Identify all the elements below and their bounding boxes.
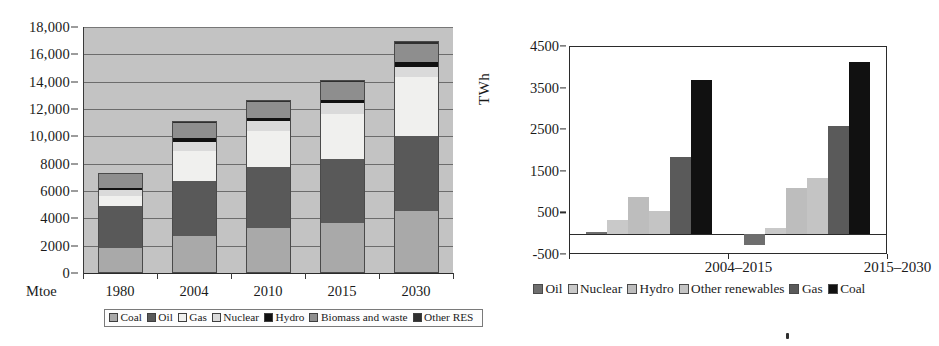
right-chart-legend-item: Coal (828, 282, 866, 295)
left-chart-x-tick-mark (231, 273, 232, 279)
left-chart-plot-area (83, 27, 453, 273)
right-chart-legend-item: Hydro (627, 282, 673, 295)
left-chart-y-tick-mark (71, 109, 78, 110)
left-chart-bar-segment (321, 114, 364, 158)
left-chart-bar-slot (232, 27, 306, 273)
legend-swatch-icon (109, 313, 118, 322)
right-chart-y-tick-mark (560, 253, 566, 254)
left-chart-y-tick-label: 2000 (40, 238, 70, 253)
left-chart-bar-segment (99, 206, 142, 248)
left-chart-x-axis-line (83, 273, 453, 275)
right-chart-legend-label: Other renewables (691, 282, 784, 295)
left-chart-figure: 0200040006000800010,00012,00014,00016,00… (0, 0, 470, 346)
left-chart-x-tick-mark (453, 273, 454, 279)
left-chart-y-tick-label: 10,000 (29, 129, 70, 144)
right-chart-x-tick-label: 2015–2030 (808, 260, 939, 275)
right-chart-bar (691, 80, 712, 234)
left-chart-legend-label: Other RES (424, 312, 473, 323)
page-artifact-mark (786, 333, 789, 339)
left-chart-bar-slot (379, 27, 453, 273)
left-chart-bar-segment (247, 121, 290, 131)
legend-swatch-icon (533, 284, 543, 294)
left-chart-y-tick-label: 8000 (40, 156, 70, 171)
left-chart-y-tick-label: 6000 (40, 184, 70, 199)
right-chart-legend: OilNuclearHydroOther renewablesGasCoal (533, 282, 870, 295)
right-chart-bar (607, 220, 628, 235)
left-chart-legend-label: Biomass and waste (321, 312, 408, 323)
left-chart-legend-label: Oil (158, 312, 172, 323)
right-chart-legend-item: Other renewables (679, 282, 785, 295)
left-chart-bar-segment (321, 159, 364, 223)
left-chart-y-tick-mark (71, 27, 78, 28)
left-chart-y-tick-mark (71, 54, 78, 55)
left-chart-legend-item: Hydro (264, 312, 304, 323)
right-chart-bar (786, 188, 807, 234)
left-chart-bar-segment (173, 142, 216, 152)
right-chart-y-axis: -5005001500250035004500 (500, 0, 566, 270)
left-chart-legend-item: Coal (109, 312, 142, 323)
left-chart-y-tick-label: 12,000 (29, 102, 70, 117)
left-chart-bar-segment (395, 44, 438, 62)
left-chart-bars (84, 27, 453, 273)
left-chart-bar-segment (247, 131, 290, 167)
right-chart-y-tick-label: 500 (537, 205, 559, 220)
right-chart-y-axis-title: TWh (476, 73, 493, 105)
right-chart-legend-label: Nuclear (580, 282, 622, 295)
legend-swatch-icon (309, 313, 318, 322)
right-chart-x-axis-labels: 2004–20152015–2030 (560, 260, 900, 280)
right-chart-legend-item: Oil (533, 282, 563, 295)
left-chart-y-tick-mark (71, 191, 78, 192)
left-chart-bar-segment (99, 174, 142, 188)
right-chart-y-tick-mark (560, 45, 566, 46)
left-chart-legend-item: Biomass and waste (309, 312, 407, 323)
legend-swatch-icon (178, 313, 187, 322)
left-chart-y-tick-label: 0 (63, 266, 70, 281)
left-chart-bar-segment (173, 151, 216, 181)
legend-swatch-icon (568, 284, 578, 294)
left-chart-y-tick-mark (71, 218, 78, 219)
left-chart-x-tick-mark (83, 273, 84, 279)
left-chart-legend-item: Oil (147, 312, 173, 323)
left-chart-x-tick-label: 1980 (100, 284, 140, 299)
right-chart-legend-label: Oil (546, 282, 563, 295)
legend-swatch-icon (828, 284, 838, 294)
left-chart-x-tick-mark (157, 273, 158, 279)
left-chart-y-tick-mark (71, 163, 78, 164)
left-chart-bar-slot (158, 27, 232, 273)
legend-swatch-icon (264, 313, 273, 322)
right-chart-x-tick-mark (569, 254, 570, 259)
right-chart-bar (744, 234, 765, 244)
left-chart-bar-segment (395, 67, 438, 77)
right-chart-legend-label: Hydro (640, 282, 674, 295)
left-chart-stacked-bar (320, 80, 365, 273)
left-chart-stacked-bar (172, 121, 217, 273)
left-chart-bar-segment (395, 211, 438, 272)
right-chart-legend-item: Gas (789, 282, 822, 295)
left-chart-x-tick-label: 2004 (174, 284, 214, 299)
left-chart-bar-segment (321, 82, 364, 100)
left-chart-bar-segment (99, 196, 142, 206)
left-chart-x-tick-label: 2010 (248, 284, 288, 299)
right-chart-plot-area (569, 46, 887, 254)
right-chart-legend-label: Coal (840, 282, 865, 295)
right-chart-y-tick-label: 3500 (530, 80, 559, 95)
left-chart-x-tick-mark (379, 273, 380, 279)
left-chart-bar-segment (395, 136, 438, 211)
left-chart-legend-item: Nuclear (212, 312, 259, 323)
left-chart-bar-segment (247, 102, 290, 118)
left-chart-x-tick-label: 2015 (322, 284, 362, 299)
right-chart-y-tick-label: 4500 (530, 39, 559, 54)
left-chart-bar-segment (173, 181, 216, 236)
left-chart-y-tick-label: 4000 (40, 211, 70, 226)
left-chart-x-axis-labels: 19802004201020152030Mtoe (0, 284, 468, 304)
left-chart-bar-segment (247, 167, 290, 228)
left-chart-x-tick-mark (305, 273, 306, 279)
right-chart-bar (849, 62, 870, 235)
left-chart-y-tick-mark (71, 136, 78, 137)
right-chart-x-tick-label: 2004–2015 (649, 260, 829, 275)
legend-swatch-icon (413, 313, 422, 322)
right-chart-bar (807, 178, 828, 234)
left-chart-bar-segment (173, 236, 216, 272)
left-chart-y-tick-label: 14,000 (29, 74, 70, 89)
left-chart-bar-segment (173, 123, 216, 138)
